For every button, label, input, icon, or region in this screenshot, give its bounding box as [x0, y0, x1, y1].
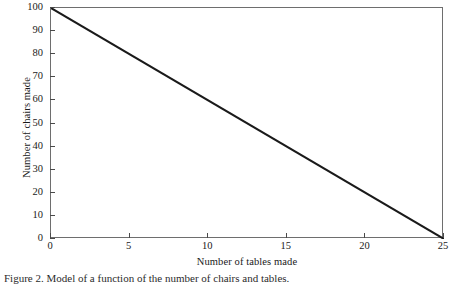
y-tick-mark	[50, 215, 55, 216]
x-tick-label: 0	[30, 240, 70, 251]
x-tick-label: 10	[187, 240, 227, 251]
x-tick-mark	[129, 233, 130, 238]
data-line-svg	[51, 8, 444, 239]
y-tick-mark	[50, 238, 55, 239]
y-tick-label: 20	[3, 187, 43, 197]
x-tick-label: 25	[423, 240, 458, 251]
y-tick-mark	[50, 30, 55, 31]
y-tick-label: 40	[3, 141, 43, 151]
y-tick-label: 60	[3, 94, 43, 104]
y-tick-mark	[50, 99, 55, 100]
data-line-series-chairs	[51, 8, 444, 239]
figure-caption: Figure 2. Model of a function of the num…	[4, 272, 456, 285]
y-tick-mark	[50, 192, 55, 193]
y-tick-label: 70	[3, 71, 43, 81]
plot-area	[50, 7, 443, 238]
x-tick-mark	[207, 233, 208, 238]
y-tick-label: 10	[3, 210, 43, 220]
y-tick-mark	[50, 169, 55, 170]
x-tick-mark	[443, 233, 444, 238]
y-tick-mark	[50, 7, 55, 8]
x-tick-mark	[286, 233, 287, 238]
x-tick-label: 5	[109, 240, 149, 251]
y-tick-label: 30	[3, 164, 43, 174]
y-tick-mark	[50, 146, 55, 147]
y-tick-label: 50	[3, 118, 43, 128]
y-tick-mark	[50, 123, 55, 124]
y-tick-label: 80	[3, 48, 43, 58]
x-tick-mark	[364, 233, 365, 238]
x-tick-mark	[50, 233, 51, 238]
y-tick-label: 90	[3, 25, 43, 35]
y-tick-label: 100	[3, 2, 43, 12]
x-tick-label: 15	[266, 240, 306, 251]
x-axis-title: Number of tables made	[50, 256, 444, 267]
x-tick-label: 20	[344, 240, 384, 251]
y-tick-mark	[50, 53, 55, 54]
y-tick-mark	[50, 76, 55, 77]
